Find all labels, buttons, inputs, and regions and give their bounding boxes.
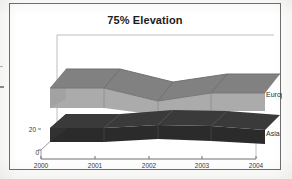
x-axis-label-2000: 2000 <box>34 162 49 169</box>
x-axis-label-2004: 2004 <box>249 162 264 169</box>
y-axis-label-20: 20 <box>29 126 37 133</box>
chart-plot-area[interactable]: 20 0 2000 2001 2002 2003 2004 Europe Asi… <box>10 4 282 171</box>
x-axis-label-2001: 2001 <box>88 162 103 169</box>
series-label-asia: Asia <box>266 130 280 137</box>
scanned-page-background: 75% Elevation <box>0 0 292 179</box>
chart-object-frame[interactable]: 75% Elevation <box>9 3 281 170</box>
page-gutter-artifact <box>0 86 4 88</box>
y-axis-label-0: 0 <box>35 149 39 156</box>
x-axis-label-2002: 2002 <box>142 162 157 169</box>
series-label-europe: Europe <box>266 91 282 99</box>
page-gutter-artifact-2 <box>0 66 3 67</box>
x-axis-label-2003: 2003 <box>195 162 210 169</box>
